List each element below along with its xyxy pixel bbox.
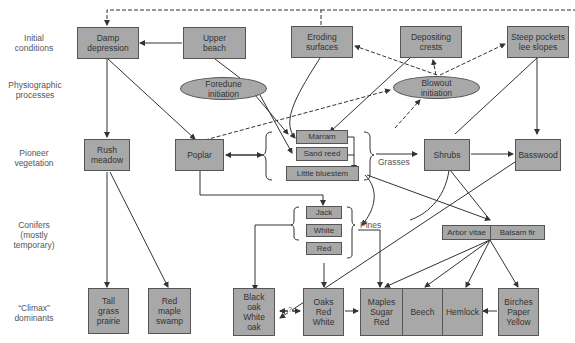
node-label: Jack [316,208,332,218]
node-oaks: Oaks Red White [303,288,344,336]
row-label-pioneer-vegetation: Pioneer vegetation [8,148,60,168]
node-label: Poplar [187,150,212,160]
uncertain-link-label: ? [288,306,292,313]
node-little-bluestem: Little bluestem [286,166,359,181]
node-balsam-fir: Balsam fir [490,225,545,240]
node-poplar: Poplar [175,139,224,171]
node-sand-reed: Sand reed [296,147,348,161]
node-shrubs: Shrubs [424,139,470,171]
node-label: White [314,226,334,236]
row-label-initial-conditions: Initial conditions [8,33,60,53]
node-label: Beech [410,307,434,317]
node-steep-pockets: Steep pockets lee slopes [507,26,569,58]
row-label-climax-dominants: “Climax” dominants [6,303,62,323]
node-label: Damp depression [87,33,129,53]
node-marram: Marram [296,130,348,144]
row-label-conifers: Conifers (mostly temporary) [6,220,62,250]
row-label-text: Conifers (mostly temporary) [13,220,54,250]
node-label: Red maple swamp [156,296,183,326]
node-damp-depression: Damp depression [77,27,139,59]
node-blowout-initiation: Blowout initiation [393,76,480,99]
row-label-text: “Climax” dominants [14,303,53,323]
node-red-pine: Red [306,242,342,255]
node-label: Basswood [518,150,557,160]
node-label: Hemlock [446,307,479,317]
node-black-white-oak: Black oak White oak [233,288,275,336]
node-depositing-crests: Depositing crests [400,26,462,58]
node-rush-meadow: Rush meadow [84,139,130,171]
node-label: Steep pockets lee slopes [511,32,565,52]
node-eroding-surfaces: Eroding surfaces [291,26,353,58]
row-label-text: Pioneer vegetation [14,148,53,168]
node-red-maple-swamp: Red maple swamp [148,288,191,334]
node-label: Shrubs [434,150,461,160]
node-label: Depositing crests [411,32,451,52]
pines-label: Pines [360,220,381,230]
node-label: Red [317,244,332,254]
row-label-physiographic-processes: Physiographic processes [2,80,68,100]
row-label-text: Initial conditions [15,33,53,53]
node-label: Little bluestem [297,169,349,179]
node-maples: Maples Sugar Red [360,288,403,336]
node-label: Rush meadow [91,145,123,165]
row-label-text: Physiographic processes [8,80,61,100]
node-white-pine: White [306,224,342,237]
node-foredune-initiation: Foredune initiation [180,77,267,100]
node-arbor-vitae: Arbor vitae [442,225,491,240]
node-label: Balsam fir [500,228,536,238]
node-label: Blowout initiation [421,78,452,98]
node-label: Sand reed [304,149,341,159]
grasses-label: Grasses [378,157,410,167]
node-label: Eroding surfaces [306,32,338,52]
node-basswood: Basswood [515,139,561,171]
node-label: Black oak White oak [243,292,265,332]
node-label: Foredune initiation [205,79,241,99]
node-hemlock: Hemlock [442,288,483,336]
node-label: Arbor vitae [447,228,486,238]
node-label: Maples Sugar Red [368,297,395,327]
node-beech: Beech [402,288,443,336]
node-label: Tall grass prairie [97,296,121,326]
node-label: Birches Paper Yellow [504,297,532,327]
node-jack-pine: Jack [306,206,342,219]
node-birches: Birches Paper Yellow [498,288,539,336]
node-label: Marram [308,132,336,142]
node-label: Oaks Red White [313,297,335,327]
node-tall-grass-prairie: Tall grass prairie [88,288,129,334]
node-label: Upper beach [203,33,226,53]
node-upper-beach: Upper beach [183,27,246,59]
